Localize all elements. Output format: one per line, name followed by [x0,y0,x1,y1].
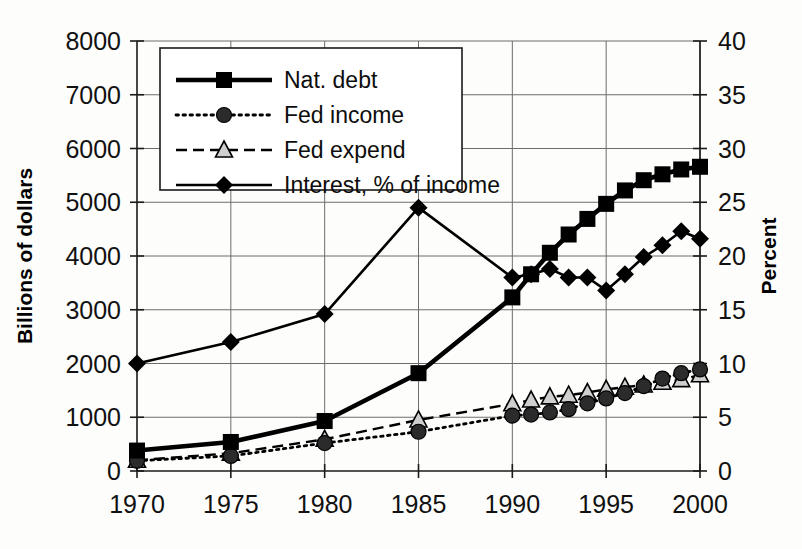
marker-circle-fed-income [599,391,614,406]
y2-tick-label: 30 [718,135,746,163]
y2-tick-label: 20 [718,242,746,270]
x-tick-label: 1995 [578,490,634,518]
y2-tick-label: 25 [718,188,746,216]
y-tick-label: 2000 [65,350,121,378]
marker-circle-fed-income [317,436,332,451]
marker-legend-square [216,72,232,88]
y-tick-label: 1000 [65,403,121,431]
y2-tick-label: 10 [718,350,746,378]
y-tick-label: 3000 [65,296,121,324]
marker-square-nat-debt [636,172,652,188]
marker-square-nat-debt [561,227,577,243]
marker-square-nat-debt [129,443,145,459]
marker-circle-fed-income [542,405,557,420]
legend-label: Nat. debt [284,67,378,93]
marker-square-nat-debt [654,166,670,182]
chart-legend: Nat. debtFed incomeFed expendInterest, %… [160,48,500,198]
x-tick-label: 1970 [109,490,165,518]
marker-circle-fed-income [580,396,595,411]
marker-circle-fed-income [674,366,689,381]
marker-legend-circle [217,108,232,123]
y2-tick-label: 0 [718,457,732,485]
marker-circle-fed-income [223,448,238,463]
y2-axis-title: Percent [757,217,780,294]
marker-circle-fed-income [693,362,708,377]
y-tick-label: 6000 [65,135,121,163]
x-tick-label: 1975 [203,490,259,518]
marker-square-nat-debt [223,434,239,450]
marker-circle-fed-income [524,407,539,422]
marker-square-nat-debt [504,289,520,305]
marker-circle-fed-income [636,379,651,394]
legend-label: Interest, % of income [284,172,500,198]
x-tick-label: 1990 [485,490,541,518]
y-tick-label: 7000 [65,81,121,109]
x-tick-label: 1985 [391,490,447,518]
marker-square-nat-debt [617,182,633,198]
y-tick-label: 8000 [65,27,121,55]
y2-tick-label: 35 [718,81,746,109]
y2-tick-label: 15 [718,296,746,324]
marker-circle-fed-income [505,408,520,423]
chart-container: 010002000300040005000600070008000 051015… [0,0,802,549]
left-axis-tick-labels: 010002000300040005000600070008000 [65,27,121,485]
legend-label: Fed expend [284,137,405,163]
marker-circle-fed-income [411,424,426,439]
y2-tick-label: 5 [718,403,732,431]
marker-square-nat-debt [673,161,689,177]
marker-square-nat-debt [317,413,333,429]
marker-square-nat-debt [598,196,614,212]
marker-circle-fed-income [655,371,670,386]
y-tick-label: 5000 [65,188,121,216]
x-tick-label: 2000 [672,490,728,518]
marker-circle-fed-income [561,402,576,417]
marker-square-nat-debt [579,211,595,227]
line-chart: 010002000300040005000600070008000 051015… [0,0,802,549]
marker-square-nat-debt [523,266,539,282]
marker-circle-fed-income [617,386,632,401]
y-axis-title: Billions of dollars [13,168,36,344]
x-tick-label: 1980 [297,490,353,518]
y-tick-label: 0 [107,457,121,485]
legend-label: Fed income [284,102,404,128]
y2-tick-label: 40 [718,27,746,55]
marker-square-nat-debt [411,365,427,381]
marker-square-nat-debt [542,245,558,261]
y-tick-label: 4000 [65,242,121,270]
marker-square-nat-debt [692,159,708,175]
